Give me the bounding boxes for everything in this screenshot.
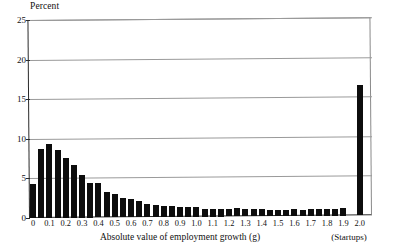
x-tick-label: 0.7 [142, 219, 152, 229]
bar [120, 198, 126, 218]
x-tick-label: 1.6 [289, 219, 299, 229]
bar [251, 209, 257, 216]
bar [275, 210, 281, 216]
bar [283, 210, 289, 216]
x-tick-label: 1.4 [257, 219, 267, 229]
histogram-chart: Percent 0510152025 00.10.20.30.40.50.60.… [0, 0, 406, 248]
startups-annotation: (Startups) [331, 232, 367, 242]
bar [259, 209, 265, 216]
x-tick-label: 0.4 [93, 219, 103, 229]
bar [95, 183, 101, 217]
bar [30, 184, 36, 218]
x-tick-label: 1.2 [224, 219, 234, 229]
bar [340, 208, 346, 215]
x-tick-label: 1.3 [240, 219, 250, 229]
bar [161, 206, 167, 217]
bar [234, 208, 240, 217]
x-tick-label: 0 [31, 219, 35, 229]
bar [169, 206, 175, 217]
x-tick-label: 0.5 [110, 219, 120, 229]
bar [55, 150, 61, 218]
bar [242, 209, 248, 216]
bar [185, 207, 191, 217]
bar [87, 183, 93, 218]
bar [177, 207, 183, 217]
bar-series [29, 20, 372, 218]
x-axis-title-text: Absolute value of employment growth (g) [100, 232, 260, 242]
bar [46, 144, 52, 218]
y-tick-label: 15 [17, 95, 26, 104]
bar [128, 199, 134, 217]
x-tick-label: 1.7 [306, 219, 316, 229]
x-axis-ticks: 00.10.20.30.40.50.60.70.80.91.01.11.21.3… [29, 219, 372, 232]
bar [210, 209, 216, 216]
x-tick-label: 2.0 [355, 219, 365, 229]
x-tick-label: 1.0 [191, 219, 201, 229]
y-tick-label: 25 [17, 16, 26, 25]
x-tick-label: 0.6 [126, 219, 136, 229]
bar [324, 209, 330, 215]
bar [193, 207, 199, 217]
x-tick-label: 1.5 [273, 219, 283, 229]
bar [316, 209, 322, 215]
bar [332, 209, 338, 215]
x-tick-label: 0.9 [175, 219, 185, 229]
bar [71, 165, 77, 217]
x-tick-label: 0.2 [61, 219, 71, 229]
x-tick-label: 1.1 [208, 219, 218, 229]
bar [218, 209, 224, 216]
x-tick-label: 0.3 [77, 219, 87, 229]
y-tick-label: 10 [17, 134, 26, 143]
bar [300, 210, 306, 216]
y-tick-label: 20 [17, 55, 26, 64]
bar [226, 209, 232, 216]
bar [308, 209, 314, 215]
plot-area: 0510152025 [29, 20, 372, 218]
y-axis-title: Percent [30, 1, 59, 11]
bar [202, 209, 208, 217]
bar [153, 205, 159, 217]
bar [267, 210, 273, 216]
bar [38, 149, 44, 218]
bar [112, 194, 118, 218]
bar [291, 209, 297, 216]
x-tick-label: 0.8 [159, 219, 169, 229]
bar [136, 201, 142, 218]
bar [104, 192, 110, 217]
bar [79, 175, 85, 218]
x-tick-label: 0.1 [44, 219, 54, 229]
bar [144, 204, 150, 217]
bar [357, 85, 363, 216]
x-tick-label: 1.9 [338, 219, 348, 229]
bar [63, 158, 69, 217]
x-tick-label: 1.8 [322, 219, 332, 229]
